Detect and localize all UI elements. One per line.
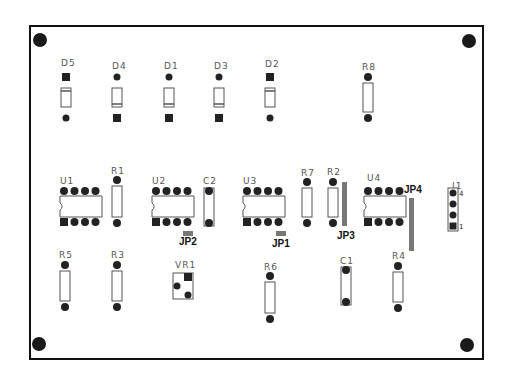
round-pad-icon (394, 262, 402, 270)
round-pad-icon (60, 187, 68, 195)
round-pad-icon (61, 261, 69, 269)
round-pad-icon (166, 74, 173, 81)
round-pad-icon (61, 303, 69, 311)
ic-label: U2 (152, 176, 166, 186)
jumper-jp4: JP4 (404, 184, 422, 251)
mounting-hole (32, 337, 46, 351)
square-pad-icon (364, 218, 372, 226)
round-pad-icon (113, 261, 121, 269)
ic-label: U4 (367, 173, 381, 183)
round-pad-icon (385, 187, 393, 195)
resistor-r2: R2 (327, 167, 341, 227)
round-pad-icon (342, 266, 350, 274)
resistor-r3: R3 (111, 250, 125, 311)
square-pad-icon (113, 114, 121, 122)
mounting-hole-icon (460, 338, 474, 352)
resistor-label: R8 (362, 62, 376, 72)
diode-label: D2 (265, 59, 280, 69)
ic-u2: U2 (152, 176, 194, 226)
square-pad-icon (60, 218, 68, 226)
round-pad-icon (163, 187, 171, 195)
square-pad-icon (152, 218, 160, 226)
jumper-jp2: JP2 (179, 231, 197, 247)
ic-body (60, 196, 102, 217)
round-pad-icon (81, 218, 89, 226)
jumper-label: JP3 (337, 230, 355, 241)
ic-label: U3 (243, 176, 257, 186)
mounting-hole-icon (462, 34, 476, 48)
trimpot-label: VR1 (175, 260, 196, 270)
square-pad-icon (62, 73, 70, 81)
diode-label: D5 (61, 58, 76, 68)
mounting-hole (462, 34, 476, 48)
round-pad-icon (394, 304, 402, 312)
round-pad-icon (267, 115, 274, 122)
round-pad-icon (275, 187, 283, 195)
round-pad-icon (173, 187, 181, 195)
diode-label: D4 (112, 61, 127, 71)
round-pad-icon (266, 315, 274, 323)
round-pad-icon (450, 190, 457, 197)
jumper-label: JP4 (404, 184, 422, 195)
jumper-bar (342, 182, 347, 226)
round-pad-icon (329, 219, 337, 227)
round-pad-icon (113, 219, 121, 227)
trimpot-vr1: VR1 (173, 260, 196, 299)
resistor-body (112, 186, 122, 217)
round-pad-icon (163, 218, 171, 226)
resistor-body (265, 282, 275, 313)
square-pad-icon (184, 273, 192, 281)
pin-number-label: 1 (459, 223, 463, 231)
round-pad-icon (114, 74, 121, 81)
diode-d2: D2 (265, 59, 280, 122)
resistor-body (302, 188, 312, 217)
round-pad-icon (254, 218, 262, 226)
capacitor-label: C1 (340, 256, 354, 266)
jumper-label: JP1 (272, 238, 290, 249)
resistor-r6: R6 (264, 262, 278, 323)
jumper-bar (409, 198, 414, 251)
resistor-label: R3 (111, 250, 125, 260)
round-pad-icon (396, 218, 404, 226)
square-pad-icon (215, 114, 223, 122)
square-pad-icon (450, 223, 457, 230)
resistor-r7: R7 (301, 168, 315, 227)
ic-u4: U4 (364, 173, 406, 226)
resistor-body (393, 272, 403, 302)
round-pad-icon (92, 187, 100, 195)
round-pad-icon (264, 187, 272, 195)
resistor-label: R1 (111, 166, 125, 176)
mounting-hole (33, 33, 47, 47)
round-pad-icon (216, 74, 223, 81)
resistor-r5: R5 (59, 250, 73, 311)
round-pad-icon (329, 178, 337, 186)
diode-d1: D1 (164, 61, 179, 122)
capacitor-label: C2 (203, 176, 217, 186)
pin-number-label: 4 (459, 190, 464, 198)
resistor-r8: R8 (362, 62, 376, 122)
jumper-bar (276, 231, 286, 236)
round-pad-icon (375, 187, 383, 195)
round-pad-icon (184, 218, 192, 226)
diode-label: D3 (214, 61, 229, 71)
round-pad-icon (71, 187, 79, 195)
resistor-label: R2 (327, 167, 341, 177)
round-pad-icon (364, 73, 372, 81)
resistor-r1: R1 (111, 166, 125, 227)
round-pad-icon (450, 212, 457, 219)
round-pad-icon (92, 218, 100, 226)
resistor-r4: R4 (392, 251, 406, 312)
ic-u3: U3 (243, 176, 285, 226)
resistor-label: R5 (59, 250, 73, 260)
capacitor-c1: C1 (340, 256, 354, 306)
square-pad-icon (165, 114, 173, 122)
mounting-hole-icon (33, 33, 47, 47)
round-pad-icon (396, 187, 404, 195)
mounting-hole (460, 338, 474, 352)
round-pad-icon (243, 187, 251, 195)
round-pad-icon (205, 187, 213, 195)
diode-d3: D3 (214, 61, 229, 122)
jumper-label: JP2 (179, 236, 197, 247)
round-pad-icon (364, 187, 372, 195)
round-pad-icon (264, 218, 272, 226)
